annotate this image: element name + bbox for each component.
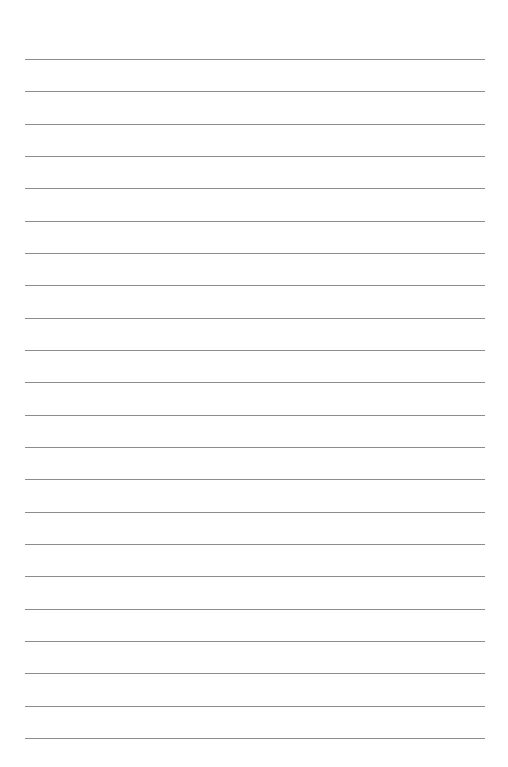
ruled-line (25, 706, 485, 707)
ruled-line (25, 576, 485, 577)
ruled-line (25, 544, 485, 545)
ruled-line (25, 318, 485, 319)
ruled-line (25, 447, 485, 448)
ruled-line (25, 609, 485, 610)
ruled-line (25, 641, 485, 642)
ruled-line (25, 382, 485, 383)
ruled-line (25, 91, 485, 92)
ruled-line (25, 59, 485, 60)
ruled-line (25, 738, 485, 739)
ruled-line (25, 253, 485, 254)
ruled-line (25, 415, 485, 416)
ruled-line (25, 221, 485, 222)
ruled-line (25, 350, 485, 351)
lined-paper-page (0, 0, 508, 767)
ruled-line (25, 512, 485, 513)
ruled-line (25, 124, 485, 125)
ruled-line (25, 156, 485, 157)
ruled-line (25, 479, 485, 480)
ruled-line (25, 188, 485, 189)
ruled-line (25, 285, 485, 286)
ruled-line (25, 673, 485, 674)
